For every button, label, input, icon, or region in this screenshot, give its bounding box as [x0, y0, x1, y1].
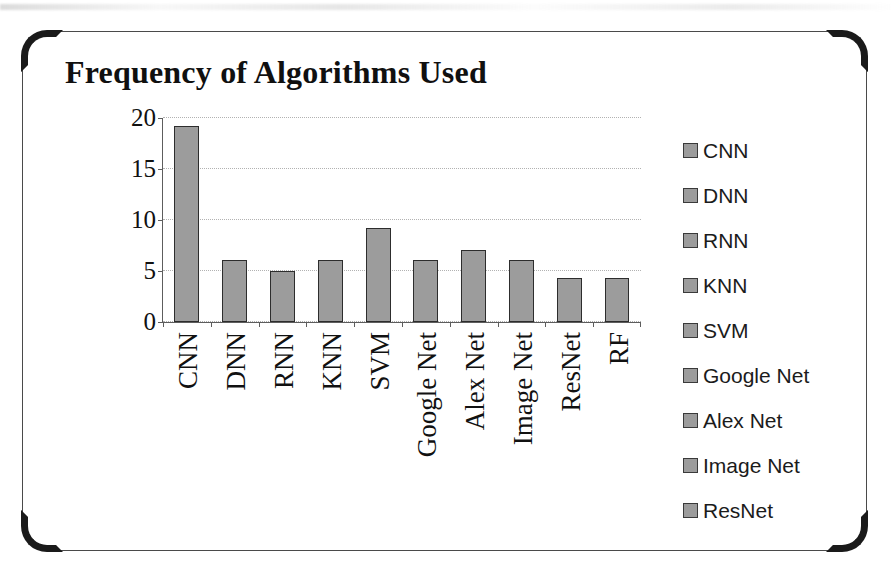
bar-slot [259, 118, 307, 322]
bar-slot [498, 118, 546, 322]
x-axis-tick [545, 322, 546, 327]
x-axis-labels: CNNDNNRNNKNNSVMGoogle NetAlex NetImage N… [162, 328, 641, 478]
y-axis-tick-label: 15 [131, 155, 156, 183]
bar-dnn[interactable] [222, 260, 247, 322]
legend-swatch-icon [683, 323, 698, 338]
legend-item-knn[interactable]: KNN [683, 263, 883, 308]
x-axis-tick [640, 322, 641, 327]
legend-label: CNN [703, 139, 749, 163]
x-axis-label-image-net: Image Net [508, 332, 539, 445]
x-axis-label-dnn: DNN [221, 332, 252, 391]
x-axis-label-knn: KNN [317, 332, 348, 391]
bar-rf[interactable] [605, 278, 630, 322]
legend-label: Alex Net [703, 409, 782, 433]
legend-label: RNN [703, 229, 749, 253]
x-axis-label-slot: DNN [210, 328, 258, 478]
legend-swatch-icon [683, 368, 698, 383]
y-axis-tick-label: 20 [131, 104, 156, 132]
frame-corner-top-right [826, 30, 868, 72]
legend-swatch-icon [683, 503, 698, 518]
legend-swatch-icon [683, 413, 698, 428]
x-axis-tick [211, 322, 212, 327]
x-axis-label-slot: CNN [162, 328, 210, 478]
y-axis-tick-label: 0 [144, 308, 157, 336]
legend-item-cnn[interactable]: CNN [683, 128, 883, 173]
x-axis-tick [306, 322, 307, 327]
x-axis-label-alex-net: Alex Net [460, 332, 491, 430]
figure-frame: Frequency of Algorithms Used 05101520 CN… [22, 31, 867, 551]
x-axis-label-slot: ResNet [545, 328, 593, 478]
legend-swatch-icon [683, 143, 698, 158]
legend-label: DNN [703, 184, 749, 208]
bar-slot [593, 118, 641, 322]
x-axis-label-slot: Image Net [497, 328, 545, 478]
bar-slot [306, 118, 354, 322]
chart-title: Frequency of Algorithms Used [65, 54, 487, 91]
frame-corner-bottom-left [21, 510, 63, 552]
legend-swatch-icon [683, 458, 698, 473]
x-axis-tick [163, 322, 164, 327]
x-axis-label-cnn: CNN [173, 332, 204, 389]
x-axis-label-slot: Alex Net [449, 328, 497, 478]
bar-image-net[interactable] [509, 260, 534, 322]
x-axis-label-slot: RNN [258, 328, 306, 478]
x-axis-label-slot: RF [593, 328, 641, 478]
bar-svm[interactable] [366, 228, 391, 322]
x-axis-tick [593, 322, 594, 327]
chart-legend: CNNDNNRNNKNNSVMGoogle NetAlex NetImage N… [683, 128, 883, 533]
bar-alex-net[interactable] [461, 250, 486, 322]
legend-item-alex-net[interactable]: Alex Net [683, 398, 883, 443]
bar-slot [402, 118, 450, 322]
legend-item-resnet[interactable]: ResNet [683, 488, 883, 533]
legend-label: SVM [703, 319, 749, 343]
bar-google-net[interactable] [413, 260, 438, 322]
legend-item-svm[interactable]: SVM [683, 308, 883, 353]
x-axis-label-rf: RF [604, 332, 635, 365]
bar-slot [211, 118, 259, 322]
y-axis-tick-label: 5 [144, 257, 157, 285]
x-axis-tick [259, 322, 260, 327]
legend-item-google-net[interactable]: Google Net [683, 353, 883, 398]
bar-cnn[interactable] [174, 126, 199, 322]
x-axis-label-slot: KNN [306, 328, 354, 478]
legend-swatch-icon [683, 278, 698, 293]
frame-corner-top-left [21, 30, 63, 72]
plot-area: 05101520 [162, 118, 641, 323]
x-axis-tick [450, 322, 451, 327]
x-axis-tick [402, 322, 403, 327]
y-axis-tick-label: 10 [131, 206, 156, 234]
x-axis-label-svm: SVM [365, 332, 396, 391]
legend-item-dnn[interactable]: DNN [683, 173, 883, 218]
legend-item-rnn[interactable]: RNN [683, 218, 883, 263]
x-axis-label-resnet: ResNet [556, 332, 587, 411]
x-axis-tick [498, 322, 499, 327]
legend-label: KNN [703, 274, 747, 298]
plot-wrapper: 05101520 [133, 118, 641, 323]
legend-label: ResNet [703, 499, 773, 523]
legend-item-image-net[interactable]: Image Net [683, 443, 883, 488]
legend-label: Image Net [703, 454, 800, 478]
x-axis-tick [354, 322, 355, 327]
x-axis-label-slot: SVM [354, 328, 402, 478]
bars-layer [163, 118, 641, 322]
bar-slot [545, 118, 593, 322]
legend-label: Google Net [703, 364, 809, 388]
scan-artifact [0, 4, 891, 10]
bar-slot [354, 118, 402, 322]
x-axis-label-rnn: RNN [269, 332, 300, 389]
x-axis-label-slot: Google Net [402, 328, 450, 478]
legend-swatch-icon [683, 188, 698, 203]
bar-knn[interactable] [318, 260, 343, 322]
bar-slot [163, 118, 211, 322]
bar-slot [450, 118, 498, 322]
bar-resnet[interactable] [557, 278, 582, 322]
legend-swatch-icon [683, 233, 698, 248]
bar-rnn[interactable] [270, 271, 295, 322]
x-axis-label-google-net: Google Net [412, 332, 443, 457]
